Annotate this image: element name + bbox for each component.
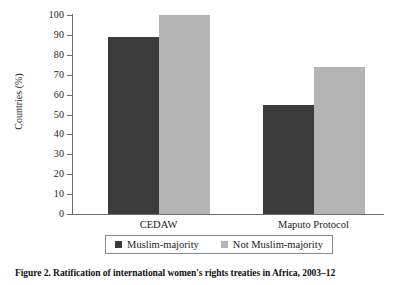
legend-swatch-icon-muslim-majority <box>115 241 122 248</box>
y-axis-tick <box>67 174 72 175</box>
legend-entry-not-muslim-majority: Not Muslim-majority <box>221 239 323 250</box>
y-axis-tick-label: 80 <box>24 50 64 60</box>
y-axis-tick <box>67 115 72 116</box>
x-axis-label-cedaw: CEDAW <box>89 219 229 231</box>
y-axis-tick <box>67 134 72 135</box>
y-axis-tick-label: 20 <box>24 169 64 179</box>
y-axis-title: Countries (%) <box>13 47 24 157</box>
y-axis-tick <box>67 75 72 76</box>
y-axis-tick-label: 10 <box>24 189 64 199</box>
y-axis-tick <box>67 194 72 195</box>
plot-area <box>73 15 383 214</box>
y-axis-tick-label: 100 <box>24 10 64 20</box>
y-axis-tick-label: 40 <box>24 129 64 139</box>
x-axis-line <box>72 214 384 215</box>
y-axis-tick <box>67 95 72 96</box>
figure-caption: Figure 2. Ratification of international … <box>15 267 395 279</box>
bar-cedaw-muslim-majority <box>108 37 159 214</box>
figure-container: Countries (%) 0102030405060708090100 CED… <box>0 0 405 285</box>
y-axis-tick-label: 90 <box>24 30 64 40</box>
bar-maputo-protocol-muslim-majority <box>263 105 314 214</box>
x-axis-label-maputo-protocol: Maputo Protocol <box>244 219 384 231</box>
bar-maputo-protocol-not-muslim-majority <box>314 67 365 214</box>
y-axis-tick-label: 50 <box>24 110 64 120</box>
y-axis-tick-label: 30 <box>24 149 64 159</box>
legend-label-not-muslim-majority: Not Muslim-majority <box>233 239 323 250</box>
y-axis-tick <box>67 214 72 215</box>
y-axis-tick <box>67 15 72 16</box>
y-axis-tick-label: 70 <box>24 70 64 80</box>
y-axis-tick-label: 0 <box>24 209 64 219</box>
chart-legend: Muslim-majority Not Muslim-majority <box>105 235 333 254</box>
y-axis-tick-label: 60 <box>24 90 64 100</box>
y-axis-tick <box>67 35 72 36</box>
legend-entry-muslim-majority: Muslim-majority <box>115 239 199 250</box>
bar-cedaw-not-muslim-majority <box>159 15 210 214</box>
legend-label-muslim-majority: Muslim-majority <box>127 239 199 250</box>
legend-swatch-icon-not-muslim-majority <box>221 241 228 248</box>
y-axis-tick <box>67 55 72 56</box>
y-axis-tick <box>67 154 72 155</box>
